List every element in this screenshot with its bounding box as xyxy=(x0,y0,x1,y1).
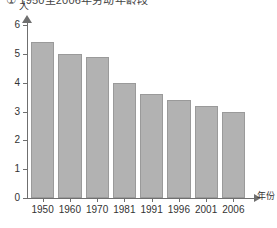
bar xyxy=(167,100,190,198)
y-axis-tick xyxy=(23,25,28,26)
y-axis-tick xyxy=(23,140,28,141)
bar xyxy=(195,106,218,198)
bar xyxy=(31,42,54,198)
y-axis-tick xyxy=(23,169,28,170)
x-axis-tick xyxy=(97,198,98,202)
x-axis-unit-label: 年份 xyxy=(257,192,275,201)
x-axis-tick-label: 2006 xyxy=(216,205,250,215)
y-axis-tick-label: 6 xyxy=(6,20,20,30)
bar xyxy=(140,94,163,198)
x-axis-tick xyxy=(179,198,180,202)
x-axis-tick xyxy=(43,198,44,202)
y-axis-tick-label: 3 xyxy=(6,107,20,117)
chart-figure: ① 1950至2006年劳动年龄段 人 年份 0123456 195019601… xyxy=(0,0,277,228)
bar xyxy=(113,83,136,198)
bar xyxy=(58,54,81,198)
y-axis-tick xyxy=(23,198,28,199)
x-axis-tick xyxy=(206,198,207,202)
y-axis-tick xyxy=(23,83,28,84)
x-axis-tick xyxy=(152,198,153,202)
plot-area: 人 年份 0123456 195019601970198119911996200… xyxy=(0,0,277,228)
y-axis-tick-label: 0 xyxy=(6,193,20,203)
y-axis-tick xyxy=(23,54,28,55)
y-axis-tick-label: 2 xyxy=(6,135,20,145)
x-axis-tick xyxy=(70,198,71,202)
bar xyxy=(222,112,245,198)
y-axis-tick-label: 5 xyxy=(6,49,20,59)
y-axis-line xyxy=(27,22,28,198)
x-axis-tick xyxy=(233,198,234,202)
y-axis-arrow-icon xyxy=(22,15,32,23)
y-axis-tick-label: 1 xyxy=(6,164,20,174)
y-axis-tick xyxy=(23,112,28,113)
bar xyxy=(86,57,109,198)
x-axis-line xyxy=(27,198,255,199)
x-axis-tick xyxy=(124,198,125,202)
y-axis-tick-label: 4 xyxy=(6,78,20,88)
y-axis-unit-label: 人 xyxy=(19,2,29,12)
